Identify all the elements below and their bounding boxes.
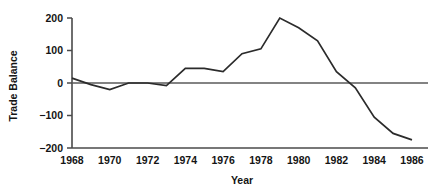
x-tick-label-8: 1984 — [363, 154, 387, 166]
y-tick-label-4: −200 — [39, 142, 63, 154]
x-axis-title: Year — [231, 174, 253, 186]
x-tick-label-9: 1986 — [400, 154, 424, 166]
x-tick-label-0: 1968 — [60, 154, 84, 166]
y-tick-label-3: −100 — [39, 109, 63, 121]
x-axis-tick-labels: 1968197019721974197619781980198219841986 — [60, 154, 424, 166]
x-tick-label-2: 1972 — [136, 154, 160, 166]
y-tick-label-1: 100 — [45, 44, 63, 56]
y-tick-label-2: 0 — [57, 77, 63, 89]
trade-balance-series-line — [72, 18, 412, 140]
x-tick-label-5: 1978 — [249, 154, 273, 166]
x-tick-label-6: 1980 — [287, 154, 311, 166]
x-tick-label-7: 1982 — [325, 154, 349, 166]
y-tick-label-0: 200 — [45, 12, 63, 24]
x-tick-label-1: 1970 — [98, 154, 122, 166]
y-axis-tick-labels: 2001000−100−200 — [39, 12, 63, 154]
chart-canvas: 2001000−100−200 196819701972197419761978… — [0, 0, 439, 194]
x-tick-label-3: 1974 — [174, 154, 198, 166]
trade-balance-chart: 2001000−100−200 196819701972197419761978… — [0, 0, 439, 194]
data-line-group — [72, 18, 412, 140]
y-axis-title: Trade Balance — [7, 50, 19, 121]
x-tick-label-4: 1976 — [211, 154, 235, 166]
